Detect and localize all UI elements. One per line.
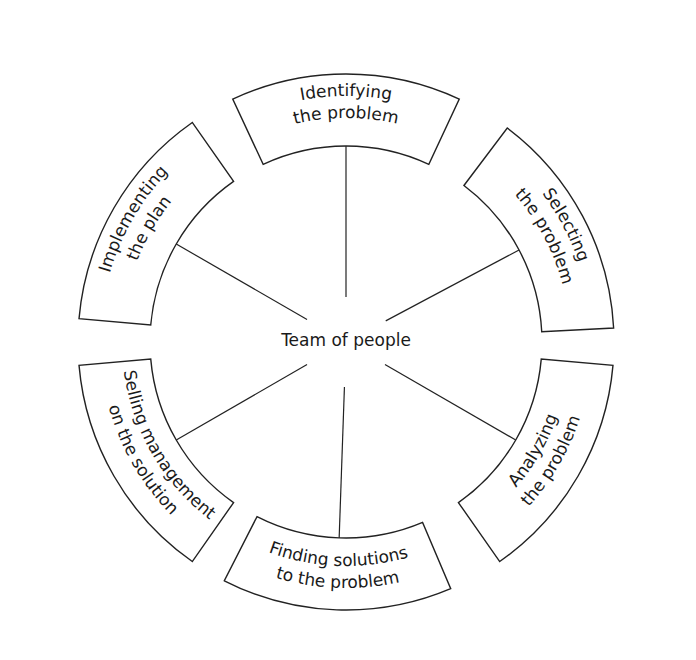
spoke-line — [339, 387, 344, 538]
segment-selling: Selling managementon the solution — [79, 321, 251, 565]
spoke-line — [176, 244, 307, 320]
spoke-line — [385, 365, 516, 441]
segment-analyzing: Analyzingthe problem — [441, 321, 613, 565]
team-wheel-diagram: Identifyingthe problemSelectingthe probl… — [0, 0, 696, 660]
spoke-line — [386, 250, 519, 321]
segment-implementing: Implementingthe plan — [79, 119, 251, 363]
segment-selecting: Selectingthe problem — [448, 123, 614, 372]
center-label: Team of people — [280, 330, 411, 350]
spoke-line — [176, 365, 307, 441]
